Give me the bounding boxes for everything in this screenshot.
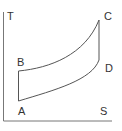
x-axis-label: S [100, 105, 107, 117]
point-label-b: B [17, 56, 24, 68]
point-label-d: D [105, 62, 113, 74]
process-b-c [19, 20, 100, 71]
ts-diagram: T S A B C D [0, 0, 122, 131]
y-axis-label: T [7, 10, 14, 22]
process-d-a [19, 60, 100, 101]
point-label-a: A [18, 105, 26, 117]
point-label-c: C [104, 10, 112, 22]
